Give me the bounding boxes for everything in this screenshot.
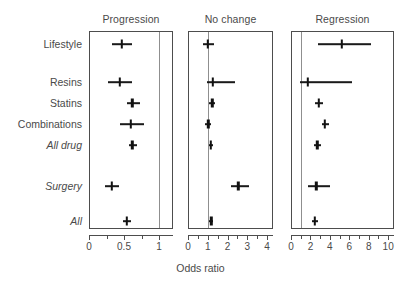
point-estimate-marker	[210, 217, 212, 226]
panel-title-1: No change	[188, 13, 273, 25]
confidence-interval-bar	[318, 43, 370, 45]
x-axis-tick-label: 0	[185, 241, 191, 252]
row-label-0: Lifestyle	[43, 38, 82, 50]
x-axis-tick	[107, 236, 108, 239]
point-estimate-marker	[211, 99, 213, 108]
point-estimate-marker	[316, 141, 318, 150]
x-axis-tick-label: 4	[264, 241, 270, 252]
x-axis-tick	[218, 236, 219, 239]
reference-line	[301, 32, 302, 228]
x-axis-tick	[378, 236, 379, 239]
x-axis-tick	[257, 236, 258, 239]
x-axis-tick-label: 4	[327, 241, 333, 252]
x-axis-tick-label: 2	[225, 241, 231, 252]
x-axis-tick	[340, 236, 341, 239]
point-estimate-marker	[126, 217, 128, 226]
row-label-4: All drug	[46, 139, 82, 151]
point-estimate-marker	[206, 40, 208, 49]
point-estimate-marker	[237, 182, 239, 191]
row-label-2: Statins	[50, 97, 82, 109]
panel-2	[291, 31, 394, 229]
point-estimate-marker	[211, 78, 213, 87]
x-axis-tick	[159, 236, 160, 240]
x-axis-tick	[247, 236, 248, 240]
panel-title-0: Progression	[89, 13, 173, 25]
point-estimate-marker	[119, 78, 121, 87]
x-axis-tick	[228, 236, 229, 240]
point-estimate-marker	[314, 217, 316, 226]
x-axis-tick	[267, 236, 268, 240]
point-estimate-marker	[340, 40, 342, 49]
x-axis-tick-label: 0	[288, 241, 294, 252]
row-label-6: All	[70, 215, 82, 227]
x-axis-tick	[208, 236, 209, 240]
x-axis-line-0	[89, 235, 173, 236]
x-axis-tick-label: 1	[156, 241, 162, 252]
point-estimate-marker	[131, 99, 133, 108]
point-estimate-marker	[207, 120, 209, 129]
x-axis-tick	[330, 236, 331, 240]
x-axis-tick-label: 0.5	[117, 241, 131, 252]
panel-title-2: Regression	[291, 13, 394, 25]
panel-1	[188, 31, 273, 229]
point-estimate-marker	[210, 141, 212, 150]
row-label-5: Surgery	[45, 180, 82, 192]
point-estimate-marker	[317, 99, 319, 108]
reference-line	[159, 32, 160, 228]
point-estimate-marker	[315, 182, 317, 191]
point-estimate-marker	[111, 182, 113, 191]
x-axis-tick	[369, 236, 370, 240]
reference-line	[208, 32, 209, 228]
point-estimate-marker	[130, 120, 132, 129]
x-axis-tick	[301, 236, 302, 239]
x-axis-tick	[388, 236, 389, 240]
x-axis-tick-label: 2	[308, 241, 314, 252]
row-label-3: Combinations	[18, 118, 82, 130]
x-axis-tick-label: 6	[347, 241, 353, 252]
x-axis-tick	[198, 236, 199, 239]
point-estimate-marker	[131, 141, 133, 150]
x-axis-tick	[349, 236, 350, 240]
forest-plot-figure: ProgressionNo changeRegressionLifestyleR…	[0, 0, 401, 288]
x-axis-tick	[359, 236, 360, 239]
x-axis-tick	[188, 236, 189, 240]
point-estimate-marker	[121, 40, 123, 49]
x-axis-tick-label: 10	[383, 241, 394, 252]
x-axis-tick	[89, 236, 90, 240]
x-axis-tick	[237, 236, 238, 239]
x-axis-tick	[320, 236, 321, 239]
row-label-1: Resins	[50, 76, 82, 88]
panel-0	[89, 31, 173, 229]
confidence-interval-bar	[231, 185, 249, 187]
point-estimate-marker	[306, 78, 308, 87]
confidence-interval-bar	[308, 185, 330, 187]
x-axis-tick	[310, 236, 311, 240]
x-axis-tick-label: 1	[205, 241, 211, 252]
point-estimate-marker	[324, 120, 326, 129]
x-axis-tick-label: 0	[86, 241, 92, 252]
x-axis-title: Odds ratio	[0, 262, 401, 274]
x-axis-tick	[124, 236, 125, 240]
x-axis-tick-label: 3	[245, 241, 251, 252]
x-axis-tick	[142, 236, 143, 239]
x-axis-tick	[291, 236, 292, 240]
x-axis-tick-label: 8	[366, 241, 372, 252]
x-axis-line-1	[188, 235, 273, 236]
